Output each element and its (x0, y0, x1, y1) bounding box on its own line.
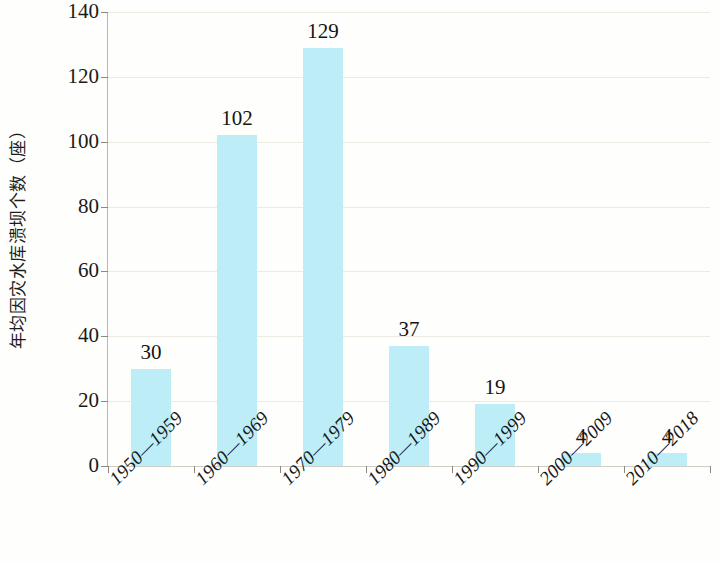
bar-value-label: 129 (283, 21, 363, 42)
y-axis-title: 年均因灾水库溃坝个数（座） (0, 0, 34, 470)
y-axis-tick-mark (101, 207, 108, 208)
y-axis-tick-label: 140 (43, 1, 99, 22)
bar-value-label: 102 (197, 108, 277, 129)
y-axis-tick-mark (101, 466, 108, 467)
y-axis-tick-label: 40 (43, 325, 99, 346)
y-axis-title-text: 年均因灾水库溃坝个数（座） (5, 121, 30, 349)
y-axis-tick-mark (101, 142, 108, 143)
y-axis-tick-label: 80 (43, 196, 99, 217)
gridline (108, 77, 710, 78)
gridline (108, 142, 710, 143)
y-axis-tick-mark (101, 401, 108, 402)
bar-chart: 年均因灾水库溃坝个数（座） 020406080100120140 1950—19… (0, 0, 719, 564)
y-axis-tick-mark (101, 271, 108, 272)
plot-area (108, 12, 710, 466)
y-axis-tick-label: 20 (43, 390, 99, 411)
bar-value-label: 4 (541, 426, 621, 447)
y-axis-tick-mark (101, 77, 108, 78)
bar-value-label: 4 (627, 426, 707, 447)
y-axis-tick-mark (101, 12, 108, 13)
gridline (108, 271, 710, 272)
bar (303, 48, 343, 466)
y-axis-tick-labels: 020406080100120140 (36, 0, 99, 480)
gridline (108, 207, 710, 208)
gridline (108, 12, 710, 13)
x-axis-tick-mark (710, 466, 711, 473)
y-axis-tick-label: 120 (43, 66, 99, 87)
bar-value-label: 30 (111, 342, 191, 363)
y-axis-tick-mark (101, 336, 108, 337)
bar-value-label: 19 (455, 377, 535, 398)
y-axis-tick-label: 60 (43, 260, 99, 281)
y-axis-tick-label: 100 (43, 131, 99, 152)
y-axis-tick-label: 0 (43, 455, 99, 476)
bar-value-label: 37 (369, 319, 449, 340)
